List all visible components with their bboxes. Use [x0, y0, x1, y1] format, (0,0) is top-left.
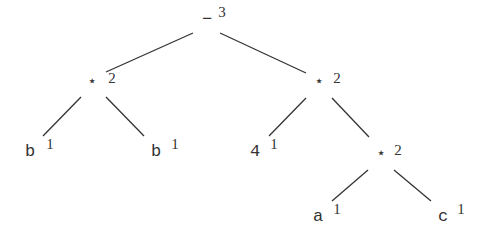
tree-edge-n6-n7 [332, 170, 368, 201]
tree-node: b1 [151, 136, 179, 161]
tree-node: b1 [25, 136, 54, 161]
node-count: 1 [333, 201, 341, 217]
tree-edge-n1-n3 [43, 97, 81, 136]
tree-edge-n6-n8 [394, 170, 431, 201]
tree-node: ⋆2 [314, 70, 341, 92]
tree-node: c1 [438, 201, 465, 226]
tree-node: ⋆2 [87, 70, 116, 92]
tree-edge-n0-n2 [220, 33, 306, 73]
node-count: 2 [394, 142, 402, 158]
tree-edge-n2-n6 [332, 98, 369, 137]
node-label: c [438, 207, 448, 226]
tree-edge-n0-n1 [106, 33, 193, 72]
node-count: 3 [218, 4, 226, 20]
node-label: a [313, 207, 323, 226]
tree-edge-n2-n5 [269, 98, 306, 136]
node-count: 1 [270, 136, 278, 152]
tree-node: −3 [202, 4, 226, 29]
node-label: 4 [250, 142, 260, 161]
node-count: 1 [171, 136, 179, 152]
expression-tree: −3⋆2⋆2b1b141⋆2a1c1 [0, 0, 492, 232]
node-label: b [151, 142, 161, 161]
node-label: ⋆ [87, 73, 97, 92]
tree-edge-n1-n4 [106, 97, 144, 136]
node-count: 2 [108, 70, 116, 86]
node-count: 2 [333, 70, 341, 86]
node-count: 1 [46, 136, 54, 152]
node-label: ⋆ [376, 145, 386, 164]
node-label: b [25, 142, 35, 161]
tree-nodes: −3⋆2⋆2b1b141⋆2a1c1 [25, 4, 465, 226]
node-count: 1 [457, 201, 465, 217]
tree-node: 41 [250, 136, 278, 161]
tree-node: a1 [313, 201, 341, 226]
tree-node: ⋆2 [376, 142, 402, 164]
tree-edges [43, 33, 431, 201]
node-label: − [202, 10, 212, 29]
node-label: ⋆ [314, 73, 324, 92]
